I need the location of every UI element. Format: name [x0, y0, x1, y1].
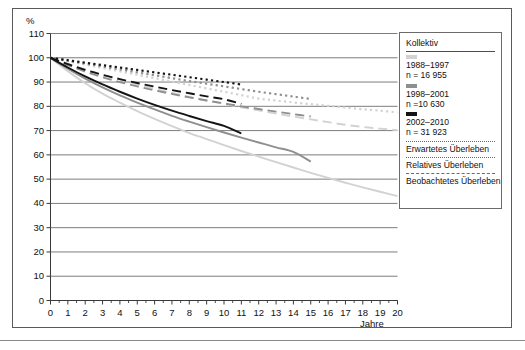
- chart-figure: % Jahre 0102030405060708090100110 012345…: [0, 0, 525, 350]
- legend-color-swatch-icon: [406, 55, 417, 59]
- legend-cohort-item: 1998–2001n =10 630: [406, 84, 501, 110]
- legend-separator-rule: [406, 173, 495, 174]
- x-tick-label-20: 20: [390, 308, 406, 317]
- y-tick-label-60: 60: [18, 150, 44, 159]
- x-tick-label-7: 7: [164, 308, 180, 317]
- legend-cohort-count: n = 16 955: [406, 70, 501, 80]
- x-tick-label-6: 6: [147, 308, 163, 317]
- y-tick-label-40: 40: [18, 198, 44, 207]
- y-tick-label-20: 20: [18, 247, 44, 256]
- x-tick-label-12: 12: [251, 308, 267, 317]
- legend-separator-rule: [406, 141, 495, 142]
- x-tick-label-1: 1: [60, 308, 76, 317]
- x-tick-label-15: 15: [303, 308, 319, 317]
- x-tick-label-17: 17: [337, 308, 353, 317]
- x-tick-label-16: 16: [320, 308, 336, 317]
- y-tick-label-0: 0: [18, 296, 44, 305]
- x-tick-label-13: 13: [268, 308, 284, 317]
- x-tick-label-10: 10: [216, 308, 232, 317]
- x-tick-label-0: 0: [43, 308, 59, 317]
- legend-cohort-item: 1988–1997n = 16 955: [406, 55, 501, 81]
- axis-lines: [47, 34, 398, 305]
- x-tick-label-14: 14: [285, 308, 301, 317]
- legend-cohort-list: 1988–1997n = 16 9551998–2001n =10 630200…: [400, 55, 501, 138]
- legend-cohort-period: 1988–1997: [406, 60, 501, 70]
- y-tick-label-100: 100: [18, 53, 44, 62]
- legend-color-swatch-icon: [406, 112, 417, 116]
- legend-cohort-period: 1998–2001: [406, 89, 501, 99]
- x-tick-label-19: 19: [372, 308, 388, 317]
- x-tick-label-9: 9: [199, 308, 215, 317]
- legend-title: Kollektiv: [406, 38, 501, 48]
- x-tick-label-18: 18: [355, 308, 371, 317]
- legend-survival-type-label: Relatives Überleben: [406, 160, 501, 170]
- chart-legend: Kollektiv 1988–1997n = 16 9551998–2001n …: [399, 32, 502, 209]
- series-line-6: [51, 58, 242, 85]
- x-tick-label-2: 2: [77, 308, 93, 317]
- figure-bottom-rule: [0, 340, 525, 341]
- legend-survival-type-label: Erwartetes Überleben: [406, 144, 501, 154]
- y-axis-title: %: [26, 15, 34, 26]
- legend-title-rule: [406, 51, 495, 52]
- x-tick-label-11: 11: [233, 308, 249, 317]
- y-tick-label-70: 70: [18, 126, 44, 135]
- series-group: [51, 58, 398, 196]
- y-tick-label-90: 90: [18, 77, 44, 86]
- legend-separator-rule: [406, 157, 495, 158]
- legend-color-swatch-icon: [406, 84, 417, 88]
- x-tick-label-5: 5: [129, 308, 145, 317]
- x-axis-title: Jahre: [360, 318, 384, 329]
- gridlines: [51, 34, 398, 301]
- y-tick-label-10: 10: [18, 271, 44, 280]
- y-tick-label-110: 110: [18, 29, 44, 38]
- legend-cohort-item: 2002–2010n = 31 923: [406, 112, 501, 138]
- legend-survival-type-list: Erwartetes ÜberlebenRelatives ÜberlebenB…: [400, 141, 501, 186]
- legend-cohort-period: 2002–2010: [406, 117, 501, 127]
- x-tick-label-8: 8: [181, 308, 197, 317]
- legend-cohort-count: n = 31 923: [406, 127, 501, 137]
- y-tick-label-50: 50: [18, 174, 44, 183]
- x-tick-label-3: 3: [95, 308, 111, 317]
- x-tick-label-4: 4: [112, 308, 128, 317]
- legend-survival-type-label: Beobachtetes Überleben: [406, 176, 501, 186]
- legend-cohort-count: n =10 630: [406, 99, 501, 109]
- y-tick-label-30: 30: [18, 223, 44, 232]
- y-tick-label-80: 80: [18, 101, 44, 110]
